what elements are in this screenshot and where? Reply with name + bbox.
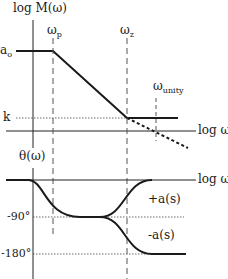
- phase-y-label: θ(ω): [19, 150, 45, 162]
- omega-p-label: ωp: [47, 24, 62, 39]
- magnitude-extrapolation: [127, 118, 188, 148]
- omega-unity-label: ωunity: [153, 80, 183, 95]
- level-a0-label: ao: [0, 44, 12, 59]
- magnitude-y-label: log M(ω): [13, 2, 67, 14]
- phase-curve-plus-a: [100, 180, 152, 217]
- phase-plot: [6, 168, 196, 279]
- tick-minus180: -180°: [1, 248, 31, 259]
- tick-minus90: -90°: [7, 211, 30, 222]
- minus-a-label: -a(s): [148, 229, 175, 241]
- bode-diagram: [0, 0, 228, 279]
- plus-a-label: +a(s): [148, 193, 181, 205]
- omega-z-label: ωz: [120, 24, 134, 39]
- level-k-label: k: [3, 111, 10, 123]
- magnitude-x-label: log ω: [198, 124, 228, 136]
- phase-x-label: log ω: [198, 173, 228, 185]
